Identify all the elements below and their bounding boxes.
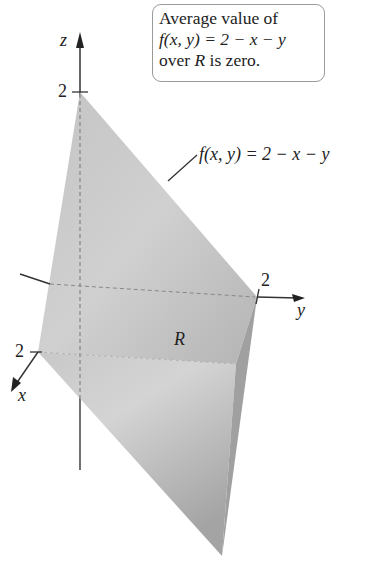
average-value-callout: Average value of f(x, y) = 2 − x − y ove… — [152, 4, 325, 82]
surface-diagram — [0, 0, 370, 567]
y-tick-label: 2 — [261, 270, 270, 291]
callout-text-end: is zero. — [205, 50, 260, 70]
y-axis-right — [257, 297, 298, 298]
callout-region-var: R — [194, 50, 205, 70]
callout-line-1: Average value of — [159, 8, 324, 29]
surface-leader-line — [168, 155, 197, 181]
upper-surface — [38, 92, 257, 364]
y-axis-label: y — [297, 300, 305, 321]
z-arrow-icon — [76, 32, 84, 48]
surface-label: f(x, y) = 2 − x − y — [199, 144, 329, 165]
callout-line-3: over R is zero. — [159, 50, 324, 71]
y-axis-left-stub — [20, 274, 50, 284]
z-tick-label: 2 — [58, 81, 67, 102]
x-tick-label: 2 — [15, 341, 24, 362]
callout-line-2: f(x, y) = 2 − x − y — [159, 29, 324, 50]
region-label: R — [174, 329, 185, 350]
callout-text: over — [159, 50, 194, 70]
lower-surface — [38, 352, 236, 556]
x-axis-label: x — [18, 385, 26, 406]
z-axis-label: z — [60, 30, 67, 51]
